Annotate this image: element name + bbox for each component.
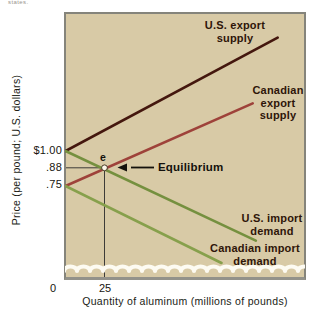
x-axis-title: Quantity of aluminum (millions of pounds… [64,295,306,307]
equilibrium-annotation: Equilibrium [158,161,223,173]
us-export-supply-label: U.S. export supply [196,19,274,44]
x-tick-25: 25 [96,282,114,294]
x-tick-zero: 0 [46,282,60,294]
us-import-demand-label: U.S. import demand [234,212,310,237]
equilibrium-point-letter: e [96,151,110,163]
y-axis-title: Price (per pound; U.S. dollars) [10,75,22,226]
canadian-export-supply-label: Canadian export supply [246,84,310,122]
y-tick-88-cents: .88 [28,161,62,173]
cropped-page-text: states. [8,0,28,5]
y-tick-1-dollar: $1.00 [28,144,62,156]
y-tick-75-cents: .75 [28,178,62,190]
plot-area [64,12,306,280]
page: { "page": { "top_text": "states." }, "ax… [0,0,325,315]
canadian-import-demand-label: Canadian import demand [204,242,306,267]
